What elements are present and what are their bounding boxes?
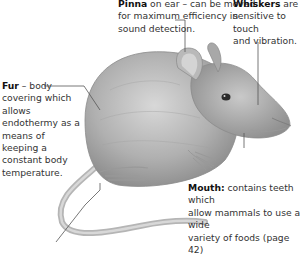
fur-term: Fur: [2, 80, 19, 91]
eye: [222, 94, 231, 101]
fur-label: Fur – body covering which allows endothe…: [2, 80, 80, 179]
whiskers-label: Whiskers are sensitive to touch and vibr…: [233, 0, 307, 48]
pinna-term: Pinna: [118, 0, 147, 9]
mouth-term: Mouth:: [188, 182, 225, 193]
whiskers-term: Whiskers: [233, 0, 280, 9]
mouth-label: Mouth: contains teeth which allow mammal…: [188, 182, 307, 256]
